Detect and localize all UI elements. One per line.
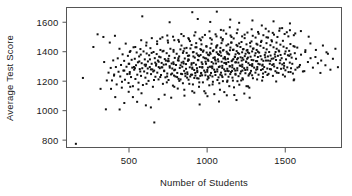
data-point xyxy=(278,72,280,74)
data-point xyxy=(199,103,201,105)
data-point xyxy=(282,40,284,42)
data-point xyxy=(266,48,268,50)
data-point xyxy=(219,74,221,76)
data-point xyxy=(246,49,248,51)
data-point xyxy=(156,53,158,55)
data-point xyxy=(258,74,260,76)
data-point xyxy=(240,56,242,58)
data-point xyxy=(272,32,274,34)
data-point xyxy=(164,94,166,96)
data-point xyxy=(208,84,210,86)
data-point xyxy=(299,64,301,66)
data-point xyxy=(242,59,244,61)
data-point xyxy=(317,62,319,64)
data-point xyxy=(267,55,269,57)
data-point xyxy=(131,59,133,61)
data-point xyxy=(140,39,142,41)
data-point xyxy=(239,73,241,75)
data-point xyxy=(254,55,256,57)
data-point xyxy=(195,64,197,66)
data-point xyxy=(211,75,213,77)
data-point xyxy=(206,78,208,80)
data-point xyxy=(183,89,185,91)
data-point xyxy=(177,88,179,90)
data-point xyxy=(260,55,262,57)
data-point xyxy=(167,40,169,42)
data-point xyxy=(218,76,220,78)
data-point xyxy=(111,79,113,81)
data-point xyxy=(171,63,173,65)
data-point xyxy=(162,83,164,85)
data-point xyxy=(173,39,175,41)
data-point xyxy=(212,83,214,85)
data-point xyxy=(168,79,170,81)
data-point xyxy=(150,106,152,108)
data-point xyxy=(199,75,201,77)
data-point xyxy=(247,51,249,53)
data-point xyxy=(229,47,231,49)
data-point xyxy=(152,70,154,72)
data-point xyxy=(223,62,225,64)
data-point xyxy=(241,70,243,72)
data-point xyxy=(216,68,218,70)
data-point xyxy=(258,33,260,35)
data-point xyxy=(108,72,110,74)
data-point xyxy=(126,73,128,75)
data-point xyxy=(212,63,214,65)
data-point xyxy=(231,70,233,72)
data-point xyxy=(184,73,186,75)
data-point xyxy=(196,46,198,48)
data-point xyxy=(183,70,185,72)
data-point xyxy=(199,66,201,68)
data-point xyxy=(141,92,143,94)
data-point xyxy=(268,30,270,32)
y-tick-label: 1400 xyxy=(37,46,59,57)
data-point xyxy=(273,46,275,48)
data-point xyxy=(154,76,156,78)
data-point xyxy=(227,61,229,63)
data-point xyxy=(186,52,188,54)
data-point xyxy=(166,75,168,77)
data-point xyxy=(216,35,218,37)
data-point xyxy=(251,40,253,42)
data-point xyxy=(135,64,137,66)
data-point xyxy=(207,75,209,77)
data-point xyxy=(256,60,258,62)
data-point xyxy=(219,47,221,49)
data-point xyxy=(203,70,205,72)
data-point xyxy=(241,51,243,53)
data-point xyxy=(298,66,300,68)
data-point xyxy=(324,64,326,66)
data-point xyxy=(226,80,228,82)
data-point xyxy=(168,55,170,57)
data-point xyxy=(216,70,218,72)
data-point xyxy=(166,52,168,54)
data-point xyxy=(179,48,181,50)
data-point xyxy=(204,71,206,73)
data-point xyxy=(188,79,190,81)
data-point xyxy=(182,61,184,63)
data-point xyxy=(238,22,240,24)
data-point xyxy=(183,95,185,97)
data-point xyxy=(123,70,125,72)
data-point xyxy=(191,64,193,66)
data-point xyxy=(174,57,176,59)
data-point xyxy=(262,76,264,78)
data-point xyxy=(284,53,286,55)
data-point xyxy=(193,35,195,37)
data-point xyxy=(146,42,148,44)
data-point xyxy=(181,73,183,75)
data-point xyxy=(265,60,267,62)
data-point xyxy=(193,62,195,64)
data-point xyxy=(285,50,287,52)
data-point xyxy=(273,63,275,65)
x-tick-label: 500 xyxy=(121,155,137,166)
y-tick-label: 1600 xyxy=(37,17,59,28)
data-point xyxy=(221,40,223,42)
data-point xyxy=(212,81,214,83)
data-point xyxy=(276,48,278,50)
data-point xyxy=(118,48,120,50)
data-point xyxy=(261,58,263,60)
data-point xyxy=(218,66,220,68)
data-point xyxy=(244,55,246,57)
